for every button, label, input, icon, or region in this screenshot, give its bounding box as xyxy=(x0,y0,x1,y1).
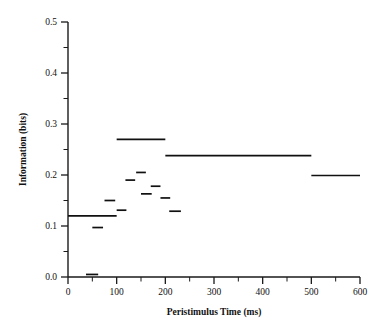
y-axis-title: Information (bits) xyxy=(18,113,29,186)
x-tick-label: 400 xyxy=(256,287,271,297)
y-tick-label: 0.0 xyxy=(45,272,57,282)
x-tick-label: 300 xyxy=(207,287,222,297)
x-tick-label: 0 xyxy=(66,287,71,297)
x-tick-label: 600 xyxy=(353,287,368,297)
y-tick-label: 0.5 xyxy=(45,17,57,27)
x-axis-title: Peristimulus Time (ms) xyxy=(167,307,262,318)
y-axis-tick-labels: 0.00.10.20.30.40.5 xyxy=(45,17,57,282)
x-axis-tick-labels: 0100200300400500600 xyxy=(66,287,368,297)
data-series-segments xyxy=(68,139,360,274)
x-axis-ticks xyxy=(68,277,360,284)
y-tick-label: 0.4 xyxy=(45,68,57,78)
y-tick-label: 0.3 xyxy=(45,119,57,129)
axes xyxy=(68,22,360,277)
y-tick-label: 0.1 xyxy=(45,221,57,231)
chart-svg: 0.00.10.20.30.40.5 0100200300400500600 P… xyxy=(0,0,387,332)
information-vs-time-chart: 0.00.10.20.30.40.5 0100200300400500600 P… xyxy=(0,0,387,332)
x-tick-label: 500 xyxy=(304,287,319,297)
y-tick-label: 0.2 xyxy=(45,170,57,180)
y-axis-ticks xyxy=(61,22,68,277)
x-tick-label: 100 xyxy=(110,287,125,297)
x-tick-label: 200 xyxy=(158,287,173,297)
